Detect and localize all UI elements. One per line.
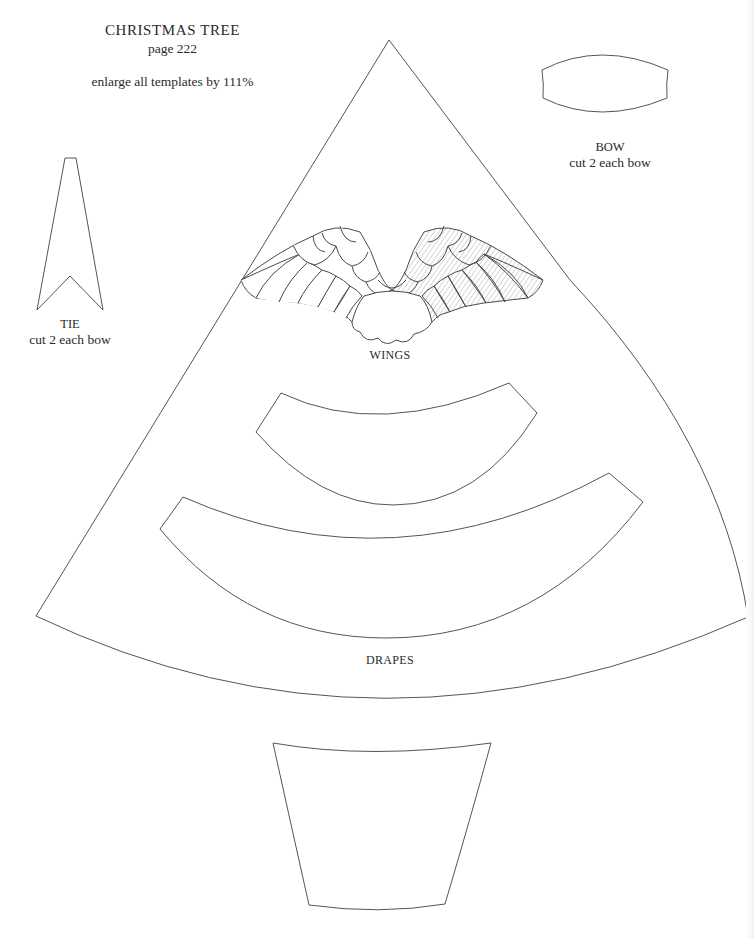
bow-cut-note: cut 2 each bow: [545, 155, 675, 171]
wings-label: WINGS: [340, 349, 440, 363]
page-title: CHRISTMAS TREE: [60, 22, 285, 39]
tree-cone-outline: [36, 40, 748, 698]
bow-label: BOW: [560, 140, 660, 154]
drapes-label: DRAPES: [330, 654, 450, 668]
drape-large-template: [160, 473, 643, 638]
bow-template: [542, 55, 668, 112]
template-page: CHRISTMAS TREE page 222 enlarge all temp…: [0, 0, 754, 938]
page-reference: page 222: [60, 41, 285, 57]
page-edge-shadow: [746, 0, 754, 938]
pot-template: [273, 743, 491, 910]
drape-small-template: [256, 383, 537, 505]
tie-label: TIE: [20, 317, 120, 331]
enlarge-instruction: enlarge all templates by 111%: [40, 74, 305, 90]
tie-cut-note: cut 2 each bow: [5, 332, 135, 348]
tie-template: [37, 158, 103, 310]
wings-template: [241, 226, 543, 344]
